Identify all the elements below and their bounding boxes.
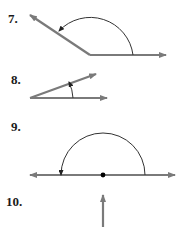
angle-diagrams	[0, 0, 182, 227]
problem-9-figure	[30, 133, 175, 177]
vertex-point	[101, 173, 106, 178]
problem-8-figure	[30, 74, 107, 98]
angle-arc-icon	[61, 133, 145, 175]
problem-7-figure	[30, 15, 166, 55]
angle-arc-icon	[69, 82, 73, 98]
ray-upper-right	[30, 74, 96, 98]
angle-arc-icon	[59, 17, 133, 55]
ray-upper-left	[30, 15, 90, 55]
